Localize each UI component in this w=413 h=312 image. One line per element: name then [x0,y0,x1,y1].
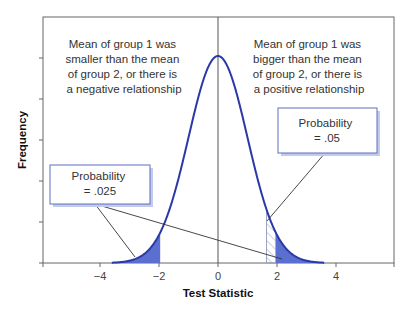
probability-box-025: Probability = .025 [50,165,153,207]
x-ticks: −4−2024 [43,263,394,282]
chart: −4−2024 Mean of group 1 was smaller than… [0,0,413,312]
box-line: Probability [72,170,126,182]
x-tick-label: 2 [274,270,280,282]
x-tick-label: −4 [94,270,107,282]
y-axis-label: Frequency [16,110,28,169]
right-annotation-line: a positive relationship [254,83,365,95]
leader-line-05 [267,153,325,221]
box-line: = .05 [314,132,340,144]
x-tick-label: 4 [333,270,339,282]
box-frame [278,108,377,153]
left-annotation-line: a negative relationship [66,83,181,95]
left-annotation: Mean of group 1 was smaller than the mea… [66,38,183,95]
probability-box-05: Probability = .05 [278,108,380,156]
x-axis-label: Test Statistic [183,287,254,299]
x-tick-label: 0 [215,270,221,282]
y-ticks [39,58,43,263]
right-annotation-line: bigger than the mean [253,53,362,65]
right-annotation: Mean of group 1 was bigger than the mean… [253,38,366,95]
right-annotation-line: of group 2, or there is [253,68,363,80]
left-annotation-line: of group 2, or there is [68,68,178,80]
left-annotation-line: smaller than the mean [66,53,180,65]
leader-line-right-tail [95,204,282,259]
left-annotation-line: Mean of group 1 was [69,38,177,50]
right-annotation-line: Mean of group 1 was [254,38,362,50]
x-tick-label: −2 [153,270,166,282]
box-line: = .025 [84,185,116,197]
box-line: Probability [299,117,353,129]
leader-line-left-tail [95,204,135,257]
